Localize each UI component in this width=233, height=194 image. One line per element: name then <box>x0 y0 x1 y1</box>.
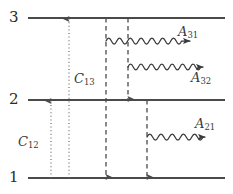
radiative-label-a32-sub: 32 <box>200 76 211 86</box>
collisional-label-c12-base: C <box>18 134 28 149</box>
radiative-label-a21: A21 <box>195 117 215 130</box>
collisional-label-c13-sub: 13 <box>84 77 95 87</box>
photon-waves <box>106 38 205 140</box>
radiative-label-a21-base: A <box>195 116 204 131</box>
radiative-label-a32-base: A <box>191 70 200 85</box>
radiative-label-a21-sub: 21 <box>204 122 215 132</box>
level-label-1: 1 <box>9 170 19 185</box>
collisional-arrows <box>51 19 69 178</box>
collisional-label-c12: C12 <box>18 135 39 148</box>
photon-wave-a21 <box>147 134 205 140</box>
collisional-label-c12-sub: 12 <box>28 140 39 150</box>
radiative-label-a32: A32 <box>191 71 211 84</box>
radiative-label-a31: A31 <box>178 25 198 38</box>
radiative-label-a31-sub: 31 <box>187 30 198 40</box>
collisional-label-c13: C13 <box>74 72 95 85</box>
collisional-label-c13-base: C <box>74 71 84 86</box>
energy-level-diagram: 3 2 1 C12 C13 A31 A32 A21 <box>0 0 233 194</box>
level-label-2: 2 <box>9 92 19 107</box>
radiative-label-a31-base: A <box>178 24 187 39</box>
level-label-3: 3 <box>9 10 19 25</box>
photon-wave-a32 <box>128 64 203 70</box>
